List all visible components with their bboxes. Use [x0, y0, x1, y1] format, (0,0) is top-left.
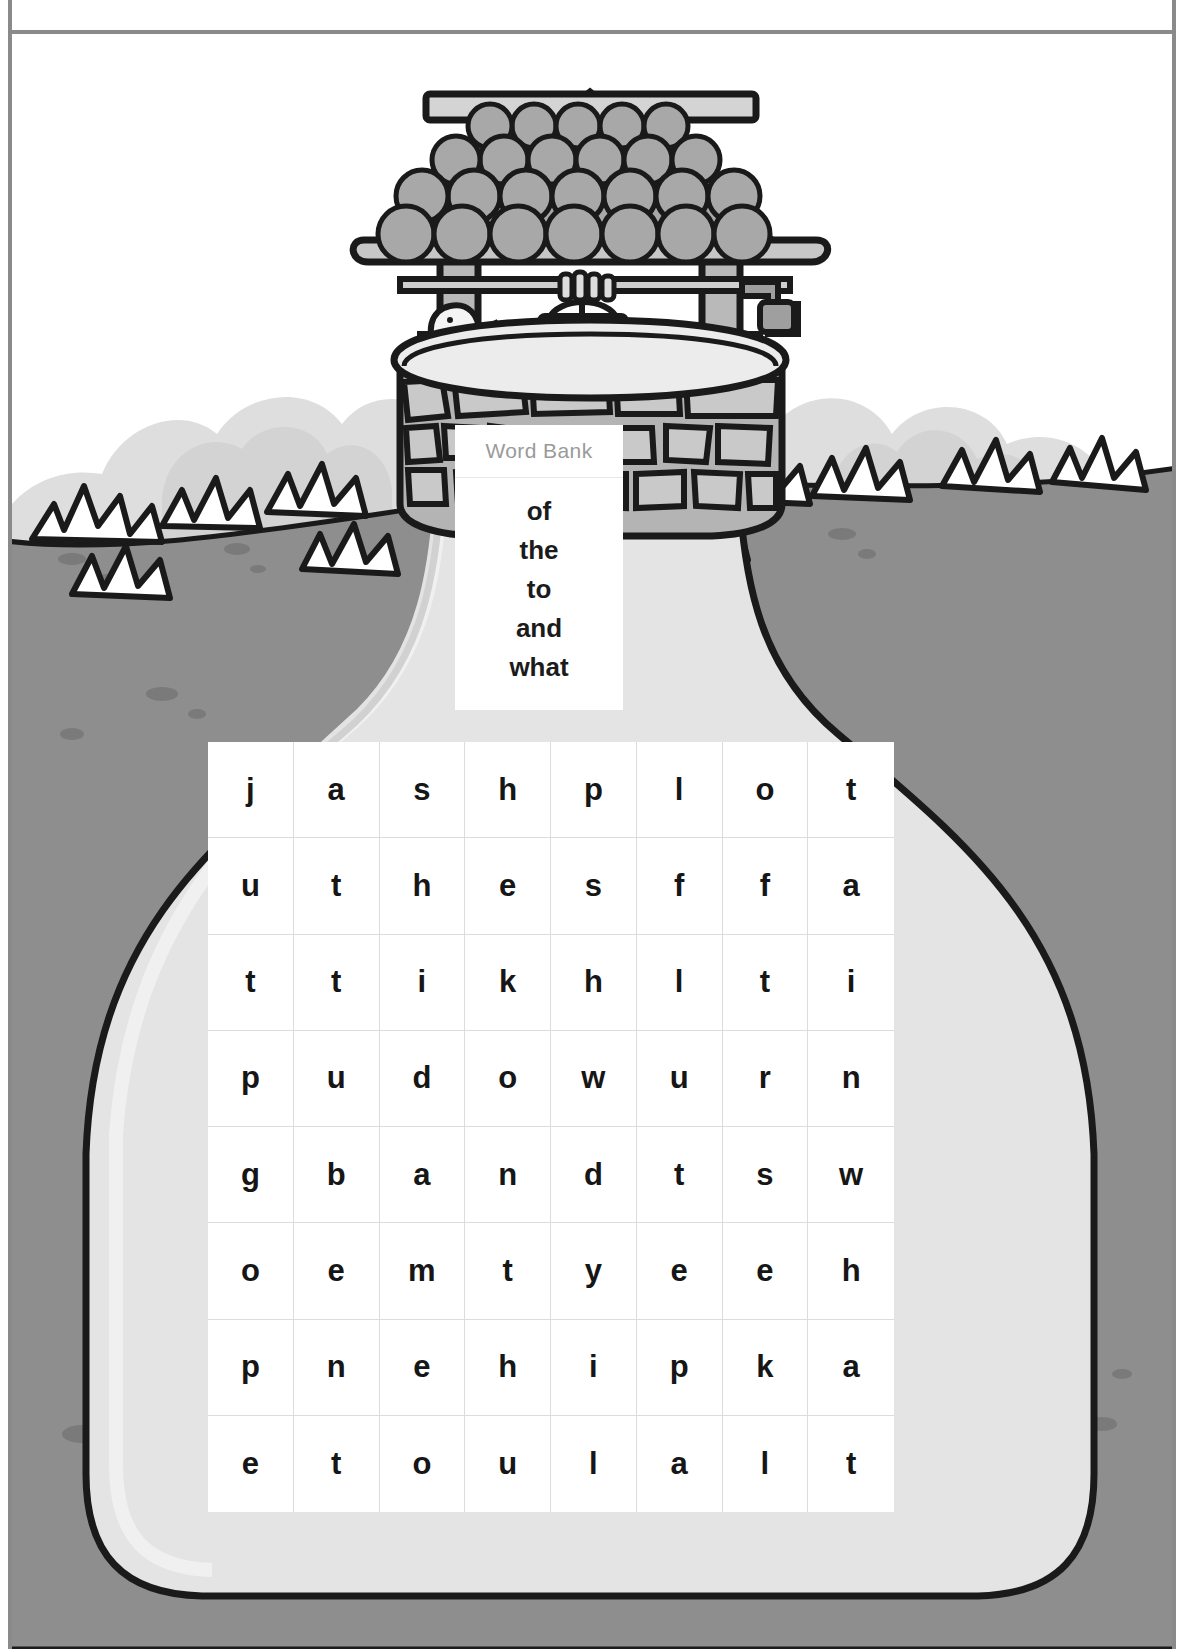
grid-cell-r8-c6[interactable]: a: [637, 1416, 723, 1512]
grid-cell-r8-c2[interactable]: t: [294, 1416, 380, 1512]
word-bank-list: of the to and what: [455, 478, 623, 687]
grid-cell-r6-c4[interactable]: t: [465, 1223, 551, 1319]
grid-cell-r8-c1[interactable]: e: [208, 1416, 294, 1512]
grid-cell-r2-c8[interactable]: a: [808, 838, 894, 934]
grid-cell-r5-c8[interactable]: w: [808, 1127, 894, 1223]
grid-cell-r3-c5[interactable]: h: [551, 935, 637, 1031]
grid-cell-r1-c8[interactable]: t: [808, 742, 894, 838]
grid-cell-r4-c8[interactable]: n: [808, 1031, 894, 1127]
grid-cell-r4-c5[interactable]: w: [551, 1031, 637, 1127]
grid-cell-r6-c1[interactable]: o: [208, 1223, 294, 1319]
grid-cell-r2-c4[interactable]: e: [465, 838, 551, 934]
grid-cell-r4-c7[interactable]: r: [723, 1031, 809, 1127]
grid-cell-r7-c5[interactable]: i: [551, 1320, 637, 1416]
grid-cell-r7-c1[interactable]: p: [208, 1320, 294, 1416]
word-bank-word[interactable]: of: [455, 492, 623, 531]
grid-cell-r3-c3[interactable]: i: [380, 935, 466, 1031]
grid-cell-r7-c3[interactable]: e: [380, 1320, 466, 1416]
grid-cell-r1-c7[interactable]: o: [723, 742, 809, 838]
grid-cell-r4-c3[interactable]: d: [380, 1031, 466, 1127]
grid-cell-r5-c1[interactable]: g: [208, 1127, 294, 1223]
grid-cell-r2-c3[interactable]: h: [380, 838, 466, 934]
word-bank-panel: Word Bank of the to and what: [455, 425, 623, 710]
word-search-grid[interactable]: jashplotuthesffattikhltipudowurngbandtsw…: [208, 742, 894, 1512]
grid-cell-r8-c7[interactable]: l: [723, 1416, 809, 1512]
grid-cell-r8-c3[interactable]: o: [380, 1416, 466, 1512]
grid-cell-r1-c3[interactable]: s: [380, 742, 466, 838]
grid-cell-r2-c7[interactable]: f: [723, 838, 809, 934]
grid-cell-r5-c2[interactable]: b: [294, 1127, 380, 1223]
grid-cell-r4-c6[interactable]: u: [637, 1031, 723, 1127]
grid-cell-r6-c2[interactable]: e: [294, 1223, 380, 1319]
grid-cell-r5-c5[interactable]: d: [551, 1127, 637, 1223]
grid-cell-r5-c3[interactable]: a: [380, 1127, 466, 1223]
word-bank-word[interactable]: to: [455, 570, 623, 609]
grid-cell-r3-c6[interactable]: l: [637, 935, 723, 1031]
grid-cell-r5-c7[interactable]: s: [723, 1127, 809, 1223]
grid-cell-r3-c8[interactable]: i: [808, 935, 894, 1031]
grid-cell-r2-c6[interactable]: f: [637, 838, 723, 934]
grid-cell-r3-c7[interactable]: t: [723, 935, 809, 1031]
grid-cell-r6-c3[interactable]: m: [380, 1223, 466, 1319]
grid-cell-r4-c2[interactable]: u: [294, 1031, 380, 1127]
grid-cell-r1-c6[interactable]: l: [637, 742, 723, 838]
word-bank-word[interactable]: the: [455, 531, 623, 570]
grid-cell-r7-c7[interactable]: k: [723, 1320, 809, 1416]
grid-cell-r3-c2[interactable]: t: [294, 935, 380, 1031]
grid-cell-r8-c8[interactable]: t: [808, 1416, 894, 1512]
grid-cell-r6-c8[interactable]: h: [808, 1223, 894, 1319]
grid-cell-r4-c4[interactable]: o: [465, 1031, 551, 1127]
word-bank-title: Word Bank: [455, 425, 623, 478]
page-border-right: [1172, 0, 1176, 1649]
grid-cell-r5-c4[interactable]: n: [465, 1127, 551, 1223]
grid-cell-r1-c1[interactable]: j: [208, 742, 294, 838]
grid-cell-r8-c5[interactable]: l: [551, 1416, 637, 1512]
grid-cell-r7-c8[interactable]: a: [808, 1320, 894, 1416]
grid-cell-r5-c6[interactable]: t: [637, 1127, 723, 1223]
grid-cell-r7-c2[interactable]: n: [294, 1320, 380, 1416]
grid-cell-r1-c4[interactable]: h: [465, 742, 551, 838]
worksheet-page: Word Bank of the to and what jashplotuth…: [0, 0, 1192, 1649]
grid-cell-r1-c2[interactable]: a: [294, 742, 380, 838]
grid-cell-r7-c4[interactable]: h: [465, 1320, 551, 1416]
grid-cell-r4-c1[interactable]: p: [208, 1031, 294, 1127]
grid-cell-r6-c5[interactable]: y: [551, 1223, 637, 1319]
word-bank-word[interactable]: and: [455, 609, 623, 648]
grid-cell-r3-c1[interactable]: t: [208, 935, 294, 1031]
grid-cell-r7-c6[interactable]: p: [637, 1320, 723, 1416]
grid-cell-r2-c2[interactable]: t: [294, 838, 380, 934]
grid-cell-r2-c5[interactable]: s: [551, 838, 637, 934]
well-rope: [560, 272, 614, 300]
word-bank-word[interactable]: what: [455, 648, 623, 687]
grid-cell-r1-c5[interactable]: p: [551, 742, 637, 838]
grid-cell-r8-c4[interactable]: u: [465, 1416, 551, 1512]
grid-cell-r3-c4[interactable]: k: [465, 935, 551, 1031]
grid-cell-r6-c7[interactable]: e: [723, 1223, 809, 1319]
grid-cell-r2-c1[interactable]: u: [208, 838, 294, 934]
grid-cell-r6-c6[interactable]: e: [637, 1223, 723, 1319]
